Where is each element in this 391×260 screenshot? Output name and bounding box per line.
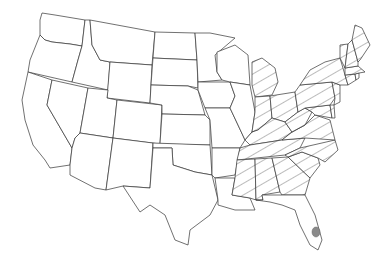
state-south-dakota — [151, 58, 198, 88]
state-north-dakota — [153, 32, 197, 60]
state-kansas — [160, 114, 210, 145]
state-new-mexico — [106, 138, 153, 190]
state-michigan — [252, 58, 278, 97]
us-map — [0, 0, 391, 260]
state-iowa — [198, 82, 235, 108]
state-wisconsin — [217, 45, 250, 85]
state-arizona — [70, 133, 113, 190]
florida-marker — [312, 227, 320, 237]
state-florida — [256, 195, 322, 250]
state-colorado — [113, 100, 162, 144]
state-wyoming — [107, 62, 152, 103]
state-montana — [90, 20, 155, 65]
state-new-york — [300, 58, 348, 85]
